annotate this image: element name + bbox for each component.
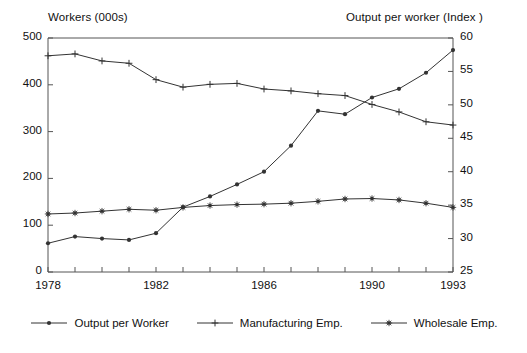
y-tick-label-left: 400 bbox=[8, 77, 42, 89]
marker-plus bbox=[261, 86, 268, 93]
y-tick-label-left: 0 bbox=[8, 264, 42, 276]
marker-star-rays bbox=[207, 202, 213, 208]
y-tick-label-right: 50 bbox=[460, 97, 500, 109]
y-tick-label-right: 55 bbox=[460, 63, 500, 75]
marker-star-rays bbox=[72, 210, 78, 216]
marker-star-rays bbox=[126, 206, 132, 212]
marker-plus bbox=[99, 58, 106, 65]
marker-plus bbox=[315, 90, 322, 97]
y-tick-label-right: 25 bbox=[460, 264, 500, 276]
legend-item-output-per-worker[interactable]: Output per Worker bbox=[29, 316, 168, 330]
marker-dot bbox=[397, 87, 401, 91]
marker-plus bbox=[450, 122, 457, 129]
marker-star-rays bbox=[315, 198, 321, 204]
marker-star-rays bbox=[450, 204, 456, 210]
y-tick-label-left: 100 bbox=[8, 217, 42, 229]
marker-dot bbox=[127, 238, 131, 242]
marker-dot bbox=[370, 95, 374, 99]
dot-marker-icon bbox=[29, 316, 69, 330]
series-line-output-per-worker bbox=[48, 50, 453, 243]
y-tick-label-right: 45 bbox=[460, 130, 500, 142]
x-tick-label: 1993 bbox=[428, 279, 478, 291]
x-tick-label: 1978 bbox=[23, 279, 73, 291]
marker-dot bbox=[451, 48, 455, 52]
marker-dot bbox=[208, 194, 212, 198]
y-tick-label-right: 40 bbox=[460, 164, 500, 176]
marker-star-rays bbox=[342, 196, 348, 202]
marker-dot bbox=[424, 71, 428, 75]
marker-plus bbox=[423, 118, 430, 125]
chart-legend: Output per WorkerManufacturing Emp.Whole… bbox=[0, 316, 527, 330]
marker-plus bbox=[288, 87, 295, 94]
marker-plus bbox=[234, 80, 241, 87]
marker-dot bbox=[316, 109, 320, 113]
star-marker-icon bbox=[369, 316, 409, 330]
legend-item-manufacturing-emp[interactable]: Manufacturing Emp. bbox=[195, 316, 343, 330]
marker-star-rays bbox=[288, 200, 294, 206]
plus-marker-icon bbox=[195, 316, 235, 330]
legend-label: Manufacturing Emp. bbox=[240, 317, 343, 329]
marker-star-rays bbox=[369, 195, 375, 201]
marker-star-rays bbox=[99, 208, 105, 214]
marker-star-rays bbox=[45, 211, 51, 217]
marker-star-rays bbox=[180, 204, 186, 210]
marker-plus bbox=[153, 76, 160, 83]
marker-star-rays bbox=[234, 201, 240, 207]
marker-star-rays bbox=[423, 200, 429, 206]
series-line-wholesale-emp bbox=[48, 199, 453, 214]
x-tick-label: 1990 bbox=[347, 279, 397, 291]
marker-plus bbox=[126, 60, 133, 67]
y-tick-label-right: 60 bbox=[460, 30, 500, 42]
marker-plus bbox=[342, 92, 349, 99]
marker-dot bbox=[154, 231, 158, 235]
marker-dot bbox=[100, 236, 104, 240]
series-line-manufacturing-emp bbox=[48, 54, 453, 125]
x-tick-label: 1982 bbox=[131, 279, 181, 291]
marker-dot bbox=[289, 144, 293, 148]
legend-label: Wholesale Emp. bbox=[414, 317, 498, 329]
marker-star-rays bbox=[153, 207, 159, 213]
y-tick-label-left: 300 bbox=[8, 124, 42, 136]
y-tick-label-right: 35 bbox=[460, 197, 500, 209]
marker-plus bbox=[45, 52, 52, 59]
marker-plus bbox=[396, 109, 403, 116]
marker-dot bbox=[235, 182, 239, 186]
marker-dot bbox=[343, 112, 347, 116]
marker-dot bbox=[73, 234, 77, 238]
marker-plus bbox=[207, 81, 214, 88]
marker-plus bbox=[180, 84, 187, 91]
y-tick-label-right: 30 bbox=[460, 231, 500, 243]
y-tick-label-left: 200 bbox=[8, 170, 42, 182]
marker-star-rays bbox=[396, 197, 402, 203]
y-tick-label-left: 500 bbox=[8, 30, 42, 42]
marker-star-rays bbox=[261, 201, 267, 207]
marker-plus bbox=[72, 51, 79, 58]
marker-dot bbox=[262, 170, 266, 174]
legend-label: Output per Worker bbox=[74, 317, 168, 329]
plot-area bbox=[0, 0, 527, 353]
marker-dot bbox=[46, 241, 50, 245]
chart-figure: Workers (000s) Output per worker (Index … bbox=[0, 0, 527, 353]
marker-plus bbox=[369, 101, 376, 108]
x-tick-label: 1986 bbox=[239, 279, 289, 291]
legend-item-wholesale-emp[interactable]: Wholesale Emp. bbox=[369, 316, 498, 330]
